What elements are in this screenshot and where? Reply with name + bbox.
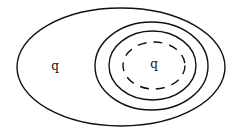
outer-ellipse — [17, 8, 225, 126]
nested-ellipse-diagram: q q — [0, 0, 240, 132]
diagram-svg — [0, 0, 240, 132]
outer-region-label: q — [51, 60, 59, 72]
inner-region-label: q — [150, 58, 158, 70]
